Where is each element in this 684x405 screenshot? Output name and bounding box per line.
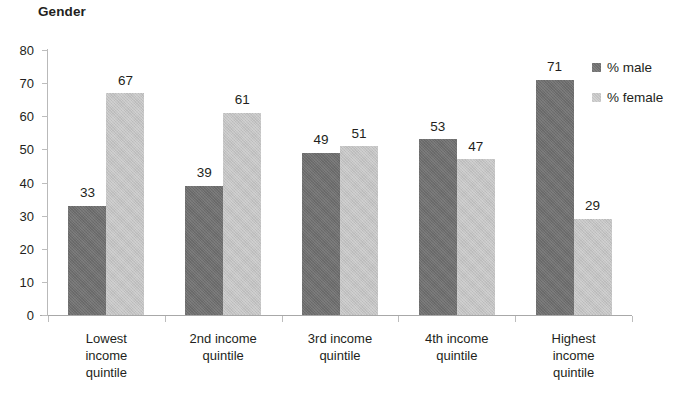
- bar-male[interactable]: [536, 80, 574, 315]
- bar-group: 4951: [302, 50, 378, 315]
- bar-female[interactable]: [106, 93, 144, 315]
- legend-swatch-icon: [592, 93, 601, 102]
- bar-value-label: 33: [68, 186, 106, 200]
- x-axis-tick: [515, 316, 516, 322]
- bar-female[interactable]: [340, 146, 378, 315]
- x-axis-category-label: 3rd incomequintile: [280, 330, 400, 364]
- bar-group: 3961: [185, 50, 261, 315]
- y-axis-tick-label: 70: [4, 76, 34, 91]
- gender-bar-chart: Gender 01020304050607080 336739614951534…: [0, 0, 684, 405]
- legend-label: % female: [607, 90, 663, 105]
- bar-value-label: 47: [457, 140, 495, 154]
- category-label-line: quintile: [280, 347, 400, 364]
- bar-group: 5347: [419, 50, 495, 315]
- legend-item[interactable]: % female: [592, 86, 663, 108]
- y-axis-tick-label: 10: [4, 274, 34, 289]
- bar-male[interactable]: [185, 186, 223, 315]
- bar-group: 3367: [68, 50, 144, 315]
- bar-value-label: 29: [574, 199, 612, 213]
- bar-value-label: 61: [223, 93, 261, 107]
- y-axis-tick-label: 50: [4, 142, 34, 157]
- x-axis-line: [40, 315, 632, 316]
- bar-female[interactable]: [574, 219, 612, 315]
- bar-value-label: 53: [419, 120, 457, 134]
- x-axis-tick: [632, 316, 633, 322]
- bar-male[interactable]: [419, 139, 457, 315]
- category-label-line: income: [514, 347, 634, 364]
- bar-male[interactable]: [68, 206, 106, 315]
- y-axis-tick-label: 60: [4, 109, 34, 124]
- category-label-line: 4th income: [397, 330, 517, 347]
- bar-value-label: 71: [536, 60, 574, 74]
- x-axis-category-label: 4th incomequintile: [397, 330, 517, 364]
- x-axis-category-label: Highestincomequintile: [514, 330, 634, 381]
- x-axis-tick: [398, 316, 399, 322]
- category-label-line: quintile: [163, 347, 283, 364]
- bar-female[interactable]: [223, 113, 261, 315]
- legend-label: % male: [607, 60, 652, 75]
- bar-value-label: 51: [340, 127, 378, 141]
- y-axis-tick-label: 30: [4, 208, 34, 223]
- category-label-line: Lowest: [46, 330, 166, 347]
- category-label-line: 2nd income: [163, 330, 283, 347]
- category-label-line: quintile: [397, 347, 517, 364]
- category-label-line: income: [46, 347, 166, 364]
- x-axis-category-label: Lowestincomequintile: [46, 330, 166, 381]
- bar-value-label: 49: [302, 133, 340, 147]
- y-axis-tick-label: 40: [4, 175, 34, 190]
- plot-area: 33673961495153477129: [48, 50, 632, 315]
- legend-item[interactable]: % male: [592, 56, 663, 78]
- legend-swatch-icon: [592, 63, 601, 72]
- category-label-line: quintile: [46, 364, 166, 381]
- bar-female[interactable]: [457, 159, 495, 315]
- category-label-line: 3rd income: [280, 330, 400, 347]
- category-label-line: quintile: [514, 364, 634, 381]
- y-axis-tick-label: 0: [4, 308, 34, 323]
- bar-value-label: 67: [106, 74, 144, 88]
- x-axis-tick: [282, 316, 283, 322]
- category-label-line: Highest: [514, 330, 634, 347]
- chart-title: Gender: [38, 4, 86, 19]
- x-axis-category-label: 2nd incomequintile: [163, 330, 283, 364]
- bar-value-label: 39: [185, 166, 223, 180]
- y-axis-tick-label: 80: [4, 43, 34, 58]
- chart-legend: % male% female: [592, 56, 663, 116]
- bar-male[interactable]: [302, 153, 340, 315]
- y-axis-tick-label: 20: [4, 241, 34, 256]
- x-axis-tick: [48, 316, 49, 322]
- x-axis-tick: [165, 316, 166, 322]
